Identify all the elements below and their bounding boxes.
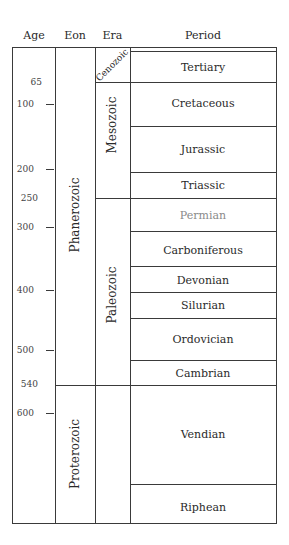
frame-right <box>276 47 277 524</box>
header-period: Period <box>130 29 276 42</box>
period-triassic: Triassic <box>181 179 225 192</box>
period-boundary <box>130 360 277 361</box>
age-tick-400 <box>46 290 54 291</box>
divider-eon-era <box>95 47 96 524</box>
age-label-200: 200 <box>4 164 34 174</box>
divider-era-period <box>130 47 131 524</box>
period-tertiary: Tertiary <box>181 61 225 74</box>
age-label-300: 300 <box>4 222 34 232</box>
age-tick-300 <box>46 227 54 228</box>
period-silurian: Silurian <box>181 299 225 312</box>
age-label-65: 65 <box>12 77 42 87</box>
era-cenozoic: Cenozoic <box>94 47 130 83</box>
header-age: Age <box>14 29 54 42</box>
age-tick-100 <box>46 104 54 105</box>
period-cambrian: Cambrian <box>176 367 231 380</box>
era-boundary-cenozoic-mesozoic <box>95 82 277 83</box>
age-label-400: 400 <box>4 285 34 295</box>
header-eon: Eon <box>55 29 95 42</box>
period-boundary <box>130 231 277 232</box>
period-jurassic: Jurassic <box>181 143 225 156</box>
eon-boundary <box>55 385 277 386</box>
era-mesozoic: Mesozoic <box>105 97 119 154</box>
era-boundary-mesozoic-paleozoic <box>95 198 277 199</box>
age-tick-200 <box>46 169 54 170</box>
frame-top <box>12 47 277 48</box>
age-label-250: 250 <box>8 193 38 203</box>
age-tick-600 <box>46 413 54 414</box>
period-vendian: Vendian <box>181 428 226 441</box>
age-label-500: 500 <box>4 345 34 355</box>
period-carboniferous: Carboniferous <box>163 244 243 257</box>
era-paleozoic: Paleozoic <box>105 267 119 324</box>
age-label-600: 600 <box>4 408 34 418</box>
period-boundary <box>130 318 277 319</box>
period-boundary <box>130 172 277 173</box>
age-label-540: 540 <box>8 379 38 389</box>
header-era: Era <box>95 29 130 42</box>
period-riphean: Riphean <box>180 501 226 514</box>
period-boundary <box>130 266 277 267</box>
period-boundary <box>130 484 277 485</box>
divider-age-eon <box>55 47 56 524</box>
period-permian: Permian <box>180 209 226 222</box>
period-devonian: Devonian <box>177 274 229 287</box>
eon-proterozoic: Proterozoic <box>68 419 82 489</box>
period-top-double <box>130 51 277 52</box>
frame-bottom <box>12 523 277 524</box>
period-boundary <box>130 292 277 293</box>
period-cretaceous: Cretaceous <box>171 97 234 110</box>
age-tick-500 <box>46 350 54 351</box>
eon-phanerozoic: Phanerozoic <box>68 178 82 253</box>
period-ordovician: Ordovician <box>173 333 234 346</box>
age-label-100: 100 <box>4 99 34 109</box>
period-boundary <box>130 126 277 127</box>
